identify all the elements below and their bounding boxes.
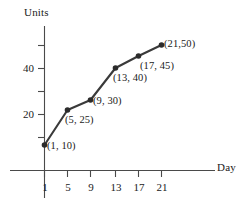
point-label-1-10: (1, 10) [47,140,76,151]
line-chart: Units Day 40 20 1 5 9 13 17 21 (1, 10) (… [0,0,244,206]
data-point-marker [65,107,71,113]
x-axis-title: Day [217,161,236,173]
chart-canvas [0,0,244,206]
y-axis-title: Units [24,6,49,18]
data-point-marker [136,53,142,59]
y-tick-label-20: 20 [12,108,34,120]
point-label-21-50: (21,50) [164,38,195,49]
x-tick-label-1: 1 [35,181,55,193]
data-point-marker [113,65,119,71]
point-label-17-45: (17, 45) [140,60,174,71]
point-label-13-40: (13, 40) [113,72,147,83]
x-tick-label-9: 9 [81,181,101,193]
x-tick-label-5: 5 [58,181,78,193]
x-tick-label-21: 21 [152,181,172,193]
x-tick-label-13: 13 [106,181,126,193]
y-tick-label-40: 40 [12,62,34,74]
y-axis-ticks [38,46,45,138]
point-label-9-30: (9, 30) [93,95,122,106]
point-label-5-25: (5, 25) [65,114,94,125]
x-tick-label-17: 17 [129,181,149,193]
x-axis-ticks [45,171,162,178]
